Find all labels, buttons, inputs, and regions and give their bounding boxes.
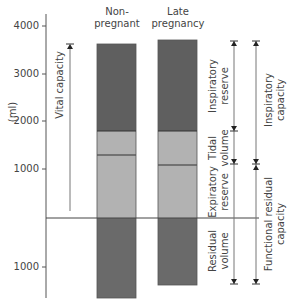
y-axis-label: (ml) — [7, 102, 18, 122]
annotation: capacity — [275, 203, 286, 245]
bar-late-pregnancy — [158, 40, 197, 285]
annotation: volume — [219, 232, 230, 269]
category-label: pregnant — [94, 18, 140, 29]
vital-capacity-label: Vital capacity — [54, 51, 65, 119]
annotation: Inspiratory — [263, 73, 274, 127]
annotation: Functional residual — [263, 177, 274, 271]
annotation: reserve — [219, 173, 230, 211]
tick-1000: 1000 — [14, 163, 39, 174]
annotation: volume — [219, 129, 230, 166]
category-label: Non- — [105, 6, 129, 17]
tick-3000: 3000 — [14, 68, 39, 79]
annotation: Residual — [207, 230, 218, 272]
tick-1000-below: 1000 — [14, 261, 39, 272]
lung-volumes-diagram: 4000 3000 2000 1000 1000 (ml) Vital capa… — [0, 0, 291, 306]
annotation: capacity — [275, 79, 286, 121]
annotation: reserve — [219, 67, 230, 105]
annotation: Expiratory — [207, 166, 218, 218]
tick-4000: 4000 — [14, 20, 39, 31]
annotation: Tidal — [207, 136, 218, 161]
category-label: Late — [167, 6, 189, 17]
category-label: pregnancy — [152, 18, 205, 29]
annotation: Inspiratory — [207, 59, 218, 113]
arrow-up-icon — [67, 44, 73, 49]
bar-non-pregnant — [97, 44, 136, 298]
